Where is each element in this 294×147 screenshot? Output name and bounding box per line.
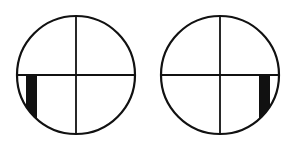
right-circle-figure [161,16,279,134]
diagram-canvas [0,0,294,147]
left-circle-figure [17,16,135,134]
